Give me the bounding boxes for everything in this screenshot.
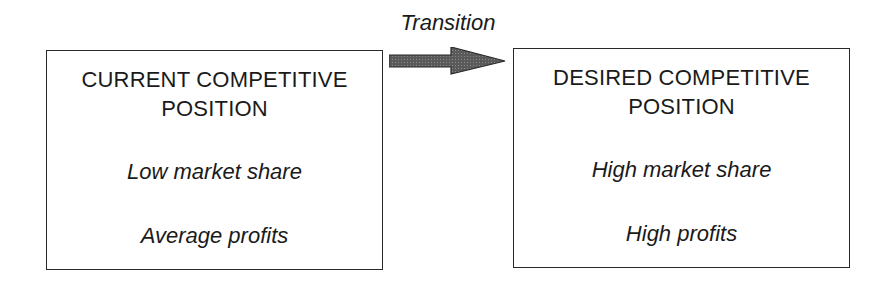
current-market-share: Low market share [47, 159, 382, 185]
current-title-line2: POSITION [47, 94, 382, 123]
current-position-box: CURRENT COMPETITIVE POSITION Low market … [46, 50, 383, 270]
desired-position-title: DESIRED COMPETITIVE POSITION [514, 63, 849, 121]
desired-profits: High profits [514, 221, 849, 247]
current-position-title: CURRENT COMPETITIVE POSITION [47, 65, 382, 123]
current-title-line1: CURRENT COMPETITIVE [47, 65, 382, 94]
desired-position-box: DESIRED COMPETITIVE POSITION High market… [513, 48, 850, 268]
current-profits: Average profits [47, 223, 382, 249]
desired-title-line2: POSITION [514, 92, 849, 121]
transition-label: Transition [393, 10, 503, 36]
desired-title-line1: DESIRED COMPETITIVE [514, 63, 849, 92]
desired-market-share: High market share [514, 157, 849, 183]
right-arrow-icon [389, 47, 507, 75]
